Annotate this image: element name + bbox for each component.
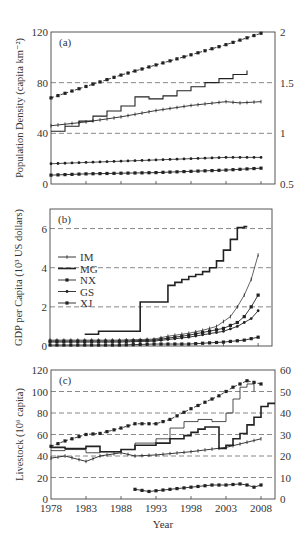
marker — [141, 159, 144, 162]
marker — [118, 343, 121, 346]
marker — [175, 170, 178, 173]
marker — [231, 483, 234, 486]
marker — [98, 172, 101, 175]
marker — [204, 157, 207, 160]
x-axis-label: Year — [153, 518, 174, 530]
y-tick-label: 2 — [42, 301, 48, 313]
x-tick-label: 1993 — [145, 502, 168, 514]
marker — [119, 73, 122, 76]
x-tick-label: 1978 — [40, 502, 63, 514]
marker — [76, 343, 79, 346]
y-right-tick-label: 60 — [280, 364, 292, 376]
marker — [253, 156, 256, 159]
legend-label: NX — [80, 274, 96, 286]
panel-label: (a) — [59, 36, 72, 49]
marker — [97, 343, 100, 346]
marker — [180, 337, 183, 340]
marker — [250, 305, 253, 308]
marker — [196, 51, 199, 54]
marker — [105, 172, 108, 175]
marker — [224, 390, 227, 393]
marker — [173, 337, 176, 340]
marker — [238, 482, 241, 485]
y-tick-label: 0 — [42, 340, 48, 352]
marker — [126, 424, 129, 427]
marker — [77, 87, 80, 90]
marker — [69, 341, 72, 344]
marker — [259, 382, 262, 385]
marker — [259, 32, 262, 35]
panel-c-livestock: 1201008060402006050403020100(c)Livestock… — [14, 364, 292, 530]
marker — [56, 94, 59, 97]
y-tick-label: 40 — [37, 450, 49, 462]
marker — [140, 489, 143, 492]
marker — [97, 341, 100, 344]
y-right-tick-label: 2 — [280, 26, 286, 38]
marker — [203, 484, 206, 487]
legend-label: XJ — [80, 297, 93, 309]
x-tick-label: 1988 — [110, 502, 133, 514]
x-tick-label: 2008 — [250, 502, 273, 514]
marker — [215, 341, 218, 344]
marker — [111, 343, 114, 346]
marker — [169, 158, 172, 161]
marker — [132, 340, 135, 343]
marker — [252, 34, 255, 37]
marker — [224, 43, 227, 46]
marker — [182, 411, 185, 414]
marker — [229, 324, 232, 327]
legend-item-mg: MG — [58, 263, 98, 275]
panel-label: (c) — [59, 374, 72, 387]
marker — [49, 174, 52, 177]
marker — [49, 96, 52, 99]
marker — [84, 85, 87, 88]
marker — [91, 172, 94, 175]
marker — [133, 171, 136, 174]
marker — [71, 162, 74, 165]
marker — [147, 422, 150, 425]
marker — [243, 321, 246, 324]
figure: 1208040021.510.5(a)Population Density (c… — [0, 0, 308, 549]
series-gs — [51, 102, 261, 126]
marker — [189, 53, 192, 56]
marker — [183, 158, 186, 161]
series-im-thin-step — [51, 384, 254, 453]
marker — [196, 169, 199, 172]
marker — [154, 489, 157, 492]
marker — [56, 442, 59, 445]
marker — [229, 327, 232, 330]
marker — [64, 162, 67, 165]
marker — [189, 170, 192, 173]
marker — [217, 394, 220, 397]
marker — [105, 430, 108, 433]
y-right-tick-label: 0 — [280, 493, 286, 505]
marker — [243, 315, 246, 318]
y-right-tick-label: 10 — [280, 472, 292, 484]
y-tick-label: 60 — [37, 429, 49, 441]
marker — [236, 321, 239, 324]
marker — [167, 338, 170, 341]
marker — [104, 341, 107, 344]
marker — [238, 39, 241, 42]
y-right-tick-label: 30 — [280, 429, 292, 441]
marker — [119, 426, 122, 429]
marker — [70, 89, 73, 92]
marker — [210, 169, 213, 172]
marker — [159, 342, 162, 345]
marker — [187, 342, 190, 345]
marker — [90, 341, 93, 344]
marker — [147, 65, 150, 68]
marker — [201, 333, 204, 336]
marker — [56, 173, 59, 176]
marker — [161, 420, 164, 423]
marker — [217, 45, 220, 48]
marker — [196, 404, 199, 407]
marker — [190, 157, 193, 160]
marker — [104, 343, 107, 346]
marker — [232, 156, 235, 159]
y-axis-label: Population Density (capita km⁻²) — [14, 37, 26, 178]
marker — [236, 325, 239, 328]
marker — [152, 342, 155, 345]
marker — [83, 341, 86, 344]
marker — [224, 168, 227, 171]
